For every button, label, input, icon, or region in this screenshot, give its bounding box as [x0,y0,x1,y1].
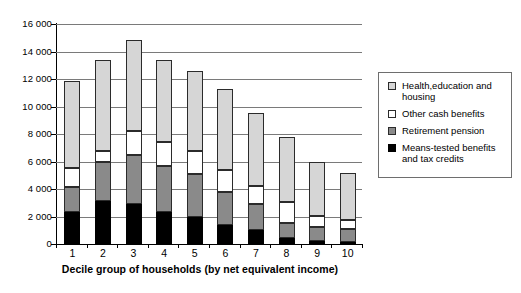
bar[interactable] [126,40,142,244]
bar-segment[interactable] [340,173,356,220]
legend-item[interactable]: Other cash benefits [388,108,505,119]
legend-label: Health,education and housing [402,80,492,102]
x-tick-label: 7 [253,247,259,259]
bar-segment[interactable] [248,186,264,204]
bar-segment[interactable] [64,212,80,244]
bar-segment[interactable] [279,238,295,244]
bar[interactable] [279,137,295,244]
x-tick-label: 10 [342,247,354,259]
bar-segment[interactable] [126,155,142,204]
x-tick-label: 5 [192,247,198,259]
chart-legend: Health,education and housingOther cash b… [378,72,512,178]
bar-segment[interactable] [248,204,264,230]
bar-segment[interactable] [95,201,111,244]
bar[interactable] [248,113,264,244]
legend-item[interactable]: Health,education and housing [388,80,505,102]
bar-segment[interactable] [217,89,233,171]
x-tick-label: 8 [284,247,290,259]
bar[interactable] [340,173,356,245]
bar[interactable] [309,162,325,245]
bar[interactable] [217,89,233,244]
x-tick-label: 2 [100,247,106,259]
legend-swatch-icon [388,110,396,118]
legend-label: Means-tested benefits and tax credits [402,142,495,164]
bar-segment[interactable] [156,166,172,212]
bar-segment[interactable] [217,225,233,244]
y-axis-tick-labels: 02 0004 0006 0008 00010 00012 00014 0001… [0,0,52,293]
bar-segment[interactable] [95,151,111,163]
bar-segment[interactable] [248,113,264,187]
legend-swatch-icon [388,144,396,152]
bar-segment[interactable] [64,168,80,187]
bar-segment[interactable] [187,174,203,217]
bar-segment[interactable] [279,223,295,238]
y-tick-label: 0 [0,239,52,249]
x-tick-label: 4 [161,247,167,259]
bar-segment[interactable] [187,217,203,245]
bar-segment[interactable] [156,142,172,166]
bar-segment[interactable] [126,131,142,155]
bar-segment[interactable] [279,137,295,202]
y-tick-label: 2 000 [0,212,52,222]
bar-segment[interactable] [309,227,325,241]
bar-segment[interactable] [156,60,172,142]
x-tick-label: 9 [314,247,320,259]
x-axis-tick-labels: 12345678910 [56,247,362,263]
bar-segment[interactable] [340,242,356,244]
chart-axes [56,24,362,244]
bars-layer [56,24,362,244]
x-tick-label: 3 [131,247,137,259]
y-tick-label: 16 000 [0,19,52,29]
legend-label: Other cash benefits [402,108,484,119]
bar-segment[interactable] [156,212,172,244]
bar[interactable] [95,60,111,244]
x-tick-label: 1 [69,247,75,259]
bar[interactable] [187,71,203,244]
bar-segment[interactable] [64,81,80,168]
x-tick-label: 6 [222,247,228,259]
bar-segment[interactable] [187,151,203,174]
legend-item[interactable]: Retirement pension [388,125,505,136]
bar[interactable] [64,81,80,244]
stacked-bar-chart: 02 0004 0006 0008 00010 00012 00014 0001… [0,0,521,293]
bar-segment[interactable] [64,187,80,212]
bar-segment[interactable] [126,204,142,244]
y-tick-label: 4 000 [0,184,52,194]
y-tick-label: 10 000 [0,102,52,112]
bar-segment[interactable] [309,162,325,216]
bar[interactable] [156,60,172,244]
bar-segment[interactable] [217,170,233,192]
x-tickmark [362,244,363,248]
bar-segment[interactable] [217,192,233,225]
x-axis-title: Decile group of households (by net equiv… [30,263,370,275]
plot-area: 02 0004 0006 0008 00010 00012 00014 0001… [0,0,370,293]
bar-segment[interactable] [309,216,325,227]
bar-segment[interactable] [187,71,203,151]
bar-segment[interactable] [309,241,325,244]
bar-segment[interactable] [126,40,142,131]
y-tick-label: 6 000 [0,157,52,167]
y-tick-label: 12 000 [0,74,52,84]
y-tick-label: 8 000 [0,129,52,139]
bar-segment[interactable] [340,220,356,229]
bar-segment[interactable] [95,162,111,201]
legend-item[interactable]: Means-tested benefits and tax credits [388,142,505,164]
bar-segment[interactable] [248,230,264,244]
legend-swatch-icon [388,127,396,135]
bar-segment[interactable] [95,60,111,151]
legend-label: Retirement pension [402,125,484,136]
y-tick-label: 14 000 [0,47,52,57]
legend-swatch-icon [388,82,396,90]
bar-segment[interactable] [279,202,295,223]
bar-segment[interactable] [340,229,356,242]
